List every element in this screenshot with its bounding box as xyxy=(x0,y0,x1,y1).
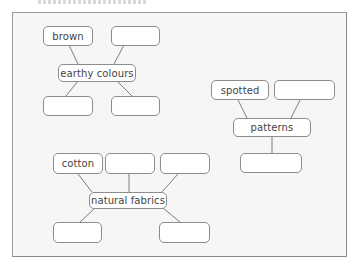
connector-line xyxy=(238,100,247,118)
node-spotted[interactable]: spotted xyxy=(211,80,269,100)
node-blank-earthy-bottom-right[interactable] xyxy=(111,96,160,116)
connector-line xyxy=(163,208,180,222)
connector-line xyxy=(117,81,132,96)
node-blank-earthy-bottom-left[interactable] xyxy=(43,96,93,116)
node-brown[interactable]: brown xyxy=(43,26,93,46)
node-blank-patterns-top-right[interactable] xyxy=(274,80,335,100)
node-blank-fabrics-bottom-right[interactable] xyxy=(159,222,210,243)
node-blank-fabrics-top-middle[interactable] xyxy=(105,153,155,174)
center-node-natural-fabrics: natural fabrics xyxy=(89,192,167,209)
node-blank-fabrics-bottom-left[interactable] xyxy=(53,222,102,243)
connector-line xyxy=(69,45,78,64)
node-blank-patterns-bottom[interactable] xyxy=(240,153,302,173)
connector-line xyxy=(78,174,92,192)
connector-line xyxy=(114,45,124,64)
center-node-earthy-colours: earthy colours xyxy=(58,64,136,82)
connector-line xyxy=(162,174,178,192)
center-node-patterns: patterns xyxy=(233,118,311,137)
connector-line xyxy=(66,81,78,96)
node-cotton[interactable]: cotton xyxy=(53,153,103,174)
connector-line xyxy=(80,208,95,222)
node-blank-fabrics-top-right[interactable] xyxy=(160,153,210,174)
connector-line xyxy=(291,100,300,118)
node-blank-earthy-top-right[interactable] xyxy=(111,26,160,46)
